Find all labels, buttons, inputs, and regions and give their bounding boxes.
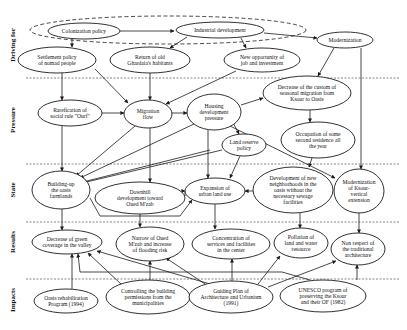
row-label-state: State [9,182,17,197]
node-label-line: Downhill [129,189,151,195]
node-label-line: Migration [137,108,160,114]
node-industrial: Industrial development [176,22,264,38]
node-label-line: and their OF (1982) [301,299,346,306]
node-label-line: flow [143,114,154,120]
arrow-edge [318,48,334,76]
node-concentration: Concentration ofservices and facilitiesi… [192,229,270,259]
node-label-line: of nomad people [38,60,76,66]
node-label-line: Rarefication of [53,107,87,113]
node-label-line: Housing [205,103,224,109]
node-settlement: Settlement policyof nomad people [18,47,96,73]
node-pollution: Pollation ofland and waterresource [274,228,328,258]
node-label-line: necessary sewage [273,193,313,199]
node-modksar: Modernizationof Ksour-verticalextension [334,169,384,213]
node-label-line: policy [237,145,251,151]
node-label-line: farmlands [50,193,72,199]
node-label-line: Return of old [135,54,165,60]
node-expansion: Expansion ofurban land use [185,178,245,204]
node-label-line: Ghardaia's habitants [127,60,172,66]
node-label-line: facilities [283,199,302,205]
node-label-line: pressure [205,115,224,121]
node-label-line: job and investment [240,60,284,66]
node-label-line: seasonal migration from [280,90,335,96]
node-landreserve: Land reservepolicy [222,134,266,156]
node-label-line: the oasis [51,187,70,193]
arrow-edge [258,256,280,284]
node-label-line: of flooding risk [133,247,168,253]
node-return: Return of oldGhardaia's habitants [110,47,190,73]
node-label-line: Oasis rehabilitation [44,295,88,301]
node-downhill: Downhilldevelopment towardOued M'zab [95,182,185,214]
diagram-nodes: Colonization policyIndustrial developmen… [18,22,385,314]
node-greencov: Decrease of greencoverage in the valley [32,230,102,254]
arrow-edge [241,98,263,105]
node-label-line: the year [309,143,327,149]
node-occupation: Occupation of somesecond residence allth… [281,122,355,158]
node-narrow: Narrow of OuedM'zab and increaseof flood… [116,227,184,261]
node-modernization: Modernization [317,32,373,48]
node-rarefication: Rarefication ofsocial rule "Ourf" [38,100,102,126]
node-label-line: Building-up [47,181,74,187]
row-label-pressure: Pressure [9,107,17,133]
node-label-line: Decrease of green [47,236,88,242]
node-label-line: neighborhoods in the [269,181,317,187]
arrow-edge [82,150,222,183]
node-controlling: Controlling the buildingpermissions from… [106,280,190,314]
row-label-driving: Driving for [9,28,17,62]
node-label-line: Ksour to Oasis [290,96,323,102]
node-label-line: Concentration of [212,235,250,241]
node-label-line: of Ksour- [348,185,370,191]
arrow-edge [230,156,240,178]
node-label-line: UNESCO program of [299,287,348,293]
node-label-line: coverage in the valley [42,242,91,248]
node-label-line: architecture [345,252,372,258]
node-migration: Migrationflow [124,100,172,128]
node-label-line: Oued M'zab [126,201,153,207]
node-label-line: development [200,109,229,115]
node-label-line: municipalities [132,300,164,306]
node-label-line: Development of new [270,175,318,181]
row-labels: Driving forPressureStateResultsImpacts [9,28,17,312]
node-label-line: preserving the Ksour [300,293,347,299]
node-label-line: Controlling the building [121,288,175,294]
node-label-line: M'zab and increase [129,241,172,247]
node-label-line: oasis without the [274,187,312,193]
node-label-line: Modernization [329,37,362,43]
arrow-edge [83,150,210,182]
arrow-edge [76,126,135,176]
node-label-line: services and facilities [207,241,255,247]
node-label-line: land and water [285,240,318,246]
row-label-results: Results [9,231,17,253]
node-colonization: Colonization policy [48,23,120,39]
node-label-line: New opportunity of [240,54,284,60]
node-housing: Housingdevelopmentpressure [187,94,241,130]
node-label-line: Modernization [343,179,376,185]
node-label-line: resource [292,246,311,252]
node-label-line: permissions from the [124,294,172,300]
node-label-line: Narrow of Oued [132,235,169,241]
node-label-line: Colonization policy [62,28,106,34]
node-label-line: vertical [351,191,368,197]
node-label-line: extension [348,197,370,203]
node-unesco: UNESCO program ofpreserving the Ksourand… [280,280,366,312]
node-nonrespect: Non respect ofthe traditionalarchitectur… [331,233,385,265]
node-label-line: in the center [217,247,245,253]
node-label-line: Expansion of [200,185,230,191]
node-newopp: New opportunity ofjob and investment [224,48,300,72]
node-label-line: the traditional [342,246,374,252]
node-label-line: Settlement policy [37,54,77,60]
node-label-line: urban land use [199,191,232,197]
node-buildingup: Building-upthe oasisfarmlands [32,171,90,209]
node-newneighb: Development of newneighborhoods in theoa… [253,167,333,213]
dpsir-diagram: Driving forPressureStateResultsImpacts C… [0,0,407,330]
arrow-edge [264,33,317,38]
node-label-line: Decrease of the custom of [278,84,337,90]
node-label-line: Land reserve [229,139,259,145]
arrow-edge [95,69,128,103]
node-label-line: Guiding Plan of [213,288,249,294]
node-label-line: Occupation of some [295,131,341,137]
row-label-impacts: Impacts [9,288,17,312]
node-label-line: development toward [117,195,163,201]
node-label-line: Architecture and Urbanism [201,294,263,300]
node-label-line: Pollation of [288,234,314,240]
